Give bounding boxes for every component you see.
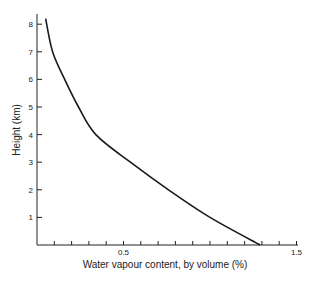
y-axis-label: Height (km) (11, 104, 22, 156)
y-tick-label: 1 (29, 213, 34, 222)
y-tick-label: 6 (29, 75, 34, 84)
chart: 0.51.5 12345678 Water vapour content, by… (0, 0, 312, 282)
x-tick-label: 0.5 (118, 248, 130, 257)
y-tick-label: 3 (29, 158, 34, 167)
axes (37, 14, 298, 245)
y-ticks: 12345678 (29, 20, 42, 222)
y-tick-label: 8 (29, 20, 34, 29)
y-tick-label: 7 (29, 48, 34, 57)
y-tick-label: 4 (29, 131, 34, 140)
x-ticks: 0.51.5 (54, 241, 302, 257)
y-tick-label: 5 (29, 103, 34, 112)
y-tick-label: 2 (29, 186, 34, 195)
x-tick-label: 1.5 (291, 248, 303, 257)
data-curve (46, 19, 261, 245)
x-axis-label: Water vapour content, by volume (%) (83, 259, 248, 270)
